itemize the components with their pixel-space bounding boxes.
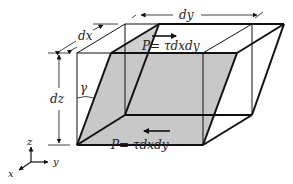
shear-element-diagram: dx dy dz γ P= τdxdy P= τdxdy z y x xyxy=(0,0,293,184)
bottom-force-label: P= τdxdy xyxy=(110,138,169,152)
dz-label: dz xyxy=(50,92,65,106)
dy-dimension xyxy=(132,12,263,18)
gamma-label: γ xyxy=(80,81,88,95)
x-axis-label: x xyxy=(8,168,14,179)
gamma-arc xyxy=(77,97,94,99)
y-axis-label: y xyxy=(52,156,59,167)
top-force-label: P= τdxdy xyxy=(141,39,200,53)
coordinate-axes xyxy=(19,147,48,170)
z-axis-label: z xyxy=(26,136,33,147)
dx-label: dx xyxy=(78,29,93,43)
dy-label: dy xyxy=(179,8,194,22)
